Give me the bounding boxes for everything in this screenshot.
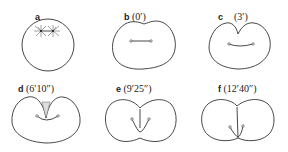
cell-furrow-3min — [192, 0, 288, 76]
panel-e: e (9′25″) — [96, 76, 192, 152]
cell-furrow-6m10s — [0, 76, 96, 152]
furrow-shading — [42, 102, 50, 118]
panel-f: f (12′40″) — [192, 76, 288, 152]
cell-furrow-start — [96, 0, 192, 76]
cell-furrow-9m25s — [96, 76, 192, 152]
panel-c: c (3′) — [192, 0, 288, 76]
panel-d: d (6′10″) — [0, 76, 96, 152]
panel-b: b (0′) — [96, 0, 192, 76]
cell-sphere-with-asters — [0, 0, 96, 76]
cell-furrow-12m40s — [192, 76, 288, 152]
panel-a: a — [0, 0, 96, 76]
